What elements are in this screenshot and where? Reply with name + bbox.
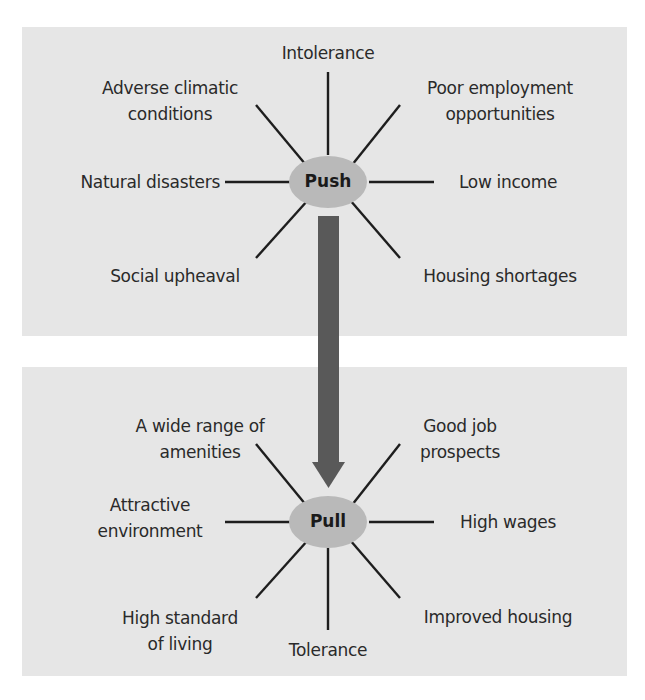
push-factor-social-upheaval: Social upheaval	[85, 263, 265, 289]
push-factor-poor-employment-opportunities: Poor employment opportunities	[400, 75, 600, 127]
push-hub-label: Push	[288, 171, 368, 191]
pull-factor-attractive-environment: Attractive environment	[70, 492, 230, 544]
spoke-bottom-right	[350, 540, 400, 598]
push-factor-housing-shortages: Housing shortages	[395, 263, 605, 289]
push-factor-natural-disasters: Natural disasters	[40, 169, 220, 195]
pull-factor-high-standard-of-living: High standard of living	[90, 605, 270, 657]
pull-factor-high-wages: High wages	[438, 509, 578, 535]
spoke-top-right	[352, 105, 400, 165]
push-factor-intolerance: Intolerance	[258, 40, 398, 66]
pull-factor-tolerance: Tolerance	[258, 637, 398, 663]
spoke-top-left	[256, 105, 306, 165]
pull-factor-wide-range-of-amenities: A wide range of amenities	[110, 413, 290, 465]
down-arrow-icon	[312, 216, 345, 488]
spoke-bottom-left	[256, 200, 308, 258]
pull-factor-good-job-prospects: Good job prospects	[380, 413, 540, 465]
pull-hub-label: Pull	[288, 511, 368, 531]
pull-factor-improved-housing: Improved housing	[393, 604, 603, 630]
spoke-bottom-left	[256, 540, 308, 598]
spoke-bottom-right	[350, 200, 400, 258]
push-factor-adverse-climatic-conditions: Adverse climatic conditions	[80, 75, 260, 127]
push-factor-low-income: Low income	[438, 169, 578, 195]
